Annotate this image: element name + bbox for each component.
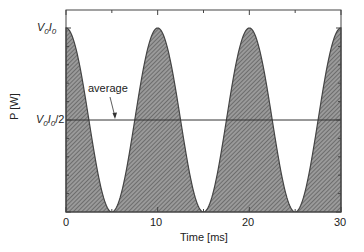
ytick-half: V0I0/2 [36,113,65,128]
arrow-head-icon [113,113,118,120]
y-axis-label: P [W] [8,93,20,120]
ytick-peak: V0I0 [37,21,56,36]
average-annotation: average [88,82,128,94]
xtick-10: 10 [150,216,162,228]
axis-ticks [66,10,341,212]
xtick-0: 0 [63,216,69,228]
plot-frame [66,10,341,212]
x-axis-label: Time [ms] [180,231,228,243]
xtick-20: 20 [242,216,254,228]
xtick-30: 30 [334,216,346,228]
